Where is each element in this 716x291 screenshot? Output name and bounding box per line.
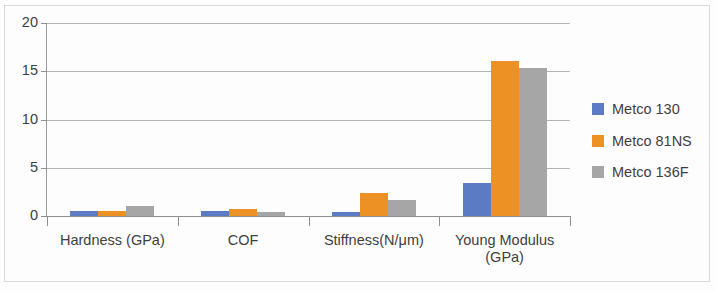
y-tick-label-20: 20 — [4, 15, 38, 30]
legend-item[interactable]: Metco 130 — [592, 102, 692, 117]
bar — [201, 211, 229, 216]
legend-item[interactable]: Metco 81NS — [592, 134, 692, 149]
legend-label: Metco 130 — [612, 102, 680, 117]
category-tick — [178, 216, 179, 226]
y-tick-mark-5 — [41, 168, 47, 169]
bar — [463, 183, 491, 216]
legend-swatch-icon — [592, 103, 604, 115]
y-tick-mark-10 — [41, 120, 47, 121]
category-label-line: (GPa) — [439, 249, 570, 266]
legend-swatch-icon — [592, 135, 604, 147]
bar — [98, 211, 126, 216]
legend-label: Metco 81NS — [612, 134, 692, 149]
category-label-line: Young Modulus — [439, 232, 570, 249]
bars-layer — [47, 23, 570, 216]
bar-group — [439, 23, 570, 216]
y-axis-tick-labels: 05101520 — [0, 0, 38, 291]
category-tick — [47, 216, 48, 226]
y-tick-mark-15 — [41, 71, 47, 72]
y-tick-label-5: 5 — [4, 160, 38, 175]
bar — [388, 200, 416, 216]
chart-legend: Metco 130Metco 81NSMetco 136F — [592, 102, 692, 180]
category-tick — [570, 216, 571, 226]
bar — [70, 211, 98, 216]
category-label-line: COF — [178, 232, 309, 249]
bar — [126, 206, 154, 216]
bar — [229, 209, 257, 216]
category-label: Stiffness(N/μm) — [309, 232, 440, 249]
bar — [519, 68, 547, 216]
category-tick — [439, 216, 440, 226]
bar-group — [47, 23, 178, 216]
legend-swatch-icon — [592, 166, 604, 178]
category-label: Young Modulus(GPa) — [439, 232, 570, 265]
category-label: COF — [178, 232, 309, 249]
y-tick-label-10: 10 — [4, 112, 38, 127]
y-tick-label-15: 15 — [4, 63, 38, 78]
y-tick-label-0: 0 — [4, 208, 38, 223]
y-tick-mark-20 — [41, 23, 47, 24]
category-label-line: Stiffness(N/μm) — [309, 232, 440, 249]
bar — [257, 212, 285, 216]
bar — [491, 61, 519, 216]
category-label-line: Hardness (GPa) — [47, 232, 178, 249]
bar — [332, 212, 360, 216]
bar-group — [309, 23, 440, 216]
bar-chart: 05101520 Metco 130Metco 81NSMetco 136F H… — [0, 0, 716, 291]
category-label: Hardness (GPa) — [47, 232, 178, 249]
bar — [360, 193, 388, 216]
legend-label: Metco 136F — [612, 165, 689, 180]
category-tick — [309, 216, 310, 226]
legend-item[interactable]: Metco 136F — [592, 165, 692, 180]
bar-group — [178, 23, 309, 216]
